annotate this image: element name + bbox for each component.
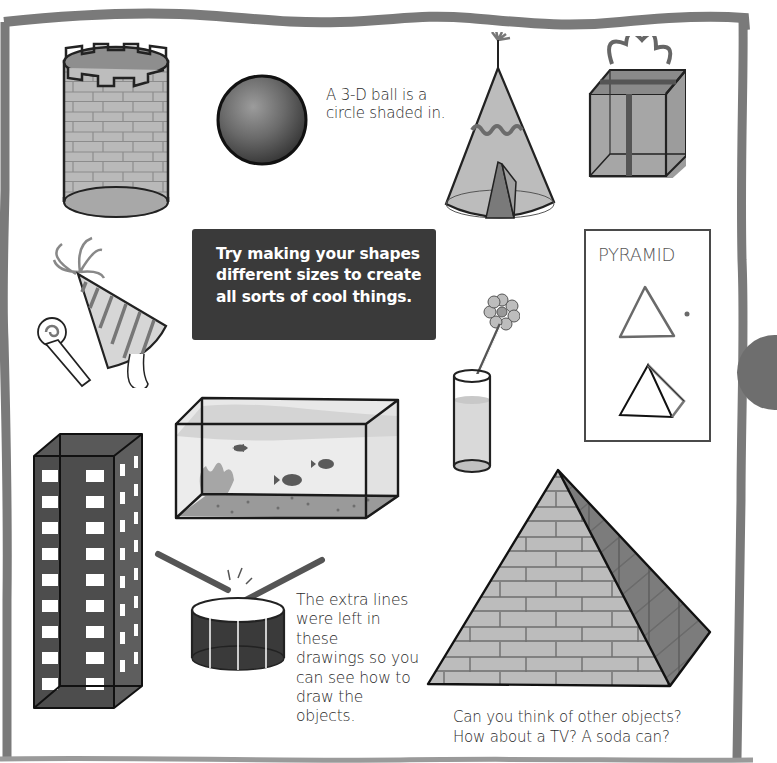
castle-tower-drawing (58, 42, 174, 222)
skyscraper-drawing (30, 430, 148, 712)
caption-line: A 3-D ball is a (326, 86, 456, 104)
tip-callout-box: Try making your shapes different sizes t… (192, 229, 436, 340)
gift-box-drawing (586, 36, 686, 178)
caption-line: can see how to (296, 669, 426, 688)
ball-caption: A 3-D ball is a circle shaded in. (326, 86, 456, 123)
caption-line: were left in these (296, 610, 426, 649)
pyramid-steps-card: PYRAMID (584, 229, 711, 442)
tip-line: all sorts of cool things. (216, 287, 426, 308)
pyramid-steps-diagram (586, 271, 708, 441)
tip-line: different sizes to create (216, 265, 426, 286)
teepee-drawing (440, 32, 560, 226)
ball-drawing (212, 72, 312, 168)
caption-line: circle shaded in. (326, 104, 456, 122)
other-objects-caption: Can you think of other objects? How abou… (453, 708, 743, 747)
caption-line: drawings so you (296, 649, 426, 668)
tip-line: Try making your shapes (216, 244, 426, 265)
caption-line: draw the objects. (296, 688, 426, 727)
caption-line: Can you think of other objects? (453, 708, 743, 728)
fish-tank-drawing (168, 376, 404, 522)
caption-line: The extra lines (296, 591, 426, 610)
flower-vase-drawing (444, 290, 520, 480)
extra-lines-caption: The extra lines were left in these drawi… (296, 591, 426, 727)
triangle-outline-icon (620, 287, 674, 337)
caption-line: How about a TV? A soda can? (453, 728, 743, 748)
pyramid-card-title: PYRAMID (598, 244, 675, 265)
stone-pyramid-drawing (424, 462, 716, 692)
party-hat-drawing (30, 236, 180, 388)
